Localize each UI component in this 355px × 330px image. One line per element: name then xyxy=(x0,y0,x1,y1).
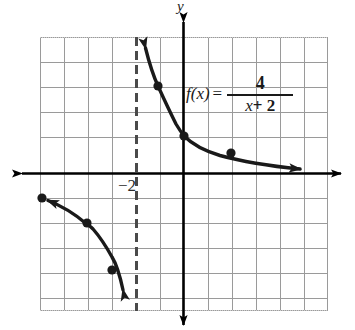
point-2-1 xyxy=(226,148,235,157)
curve-right-branch xyxy=(146,48,301,169)
graph-figure: y −2 f(x) = 4 x+ 2 xyxy=(0,0,355,330)
coordinate-plane xyxy=(0,0,355,330)
point-neg4-neg2 xyxy=(82,218,91,227)
curve-left-branch xyxy=(48,201,123,291)
point-neg3-neg4 xyxy=(107,265,116,274)
point-neg1-4 xyxy=(153,81,162,90)
point-neg6-neg1 xyxy=(37,193,46,202)
point-0-2 xyxy=(179,131,188,140)
